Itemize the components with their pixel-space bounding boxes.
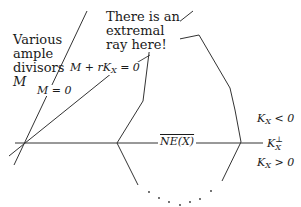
kx-pos-base: K [257,156,265,169]
kx-neg-base: K [257,112,265,125]
kx-pos-rel: > 0 [271,156,294,169]
m-plus-rk-tail: = 0 [117,61,140,74]
ample-line-2: ample [13,47,64,61]
extremal-line-1: There is an [106,10,180,24]
extremal-line-3: ray here! [106,38,180,52]
ne-x-text: NE(X) [160,135,194,148]
kx-perp-label: K⊥X [267,136,283,152]
kx-positive-label: KX > 0 [257,157,294,170]
dotted-accumulation-arc [148,190,212,206]
ample-line-1: Various [13,33,64,47]
kx-neg-rel: < 0 [271,112,294,125]
extremal-line-2: extremal [106,24,180,38]
kx-perp-sub: X [275,144,283,152]
ample-divisors-label: Various ample divisors M [13,33,64,89]
m-plus-rkx-label: M + rKX = 0 [70,62,140,75]
ne-x-label: NE(X) [158,136,196,147]
ample-line-3: divisors [13,61,64,75]
m-zero-text: M = 0 [37,84,71,97]
extremal-ray-label: There is an extremal ray here! [106,10,180,52]
m-zero-label: M = 0 [37,85,71,96]
m-plus-rk-text: M + rK [70,61,111,74]
kx-perp-base: K [267,137,275,150]
kx-negative-label: KX < 0 [257,113,294,126]
cone-boundary-right [150,35,241,181]
